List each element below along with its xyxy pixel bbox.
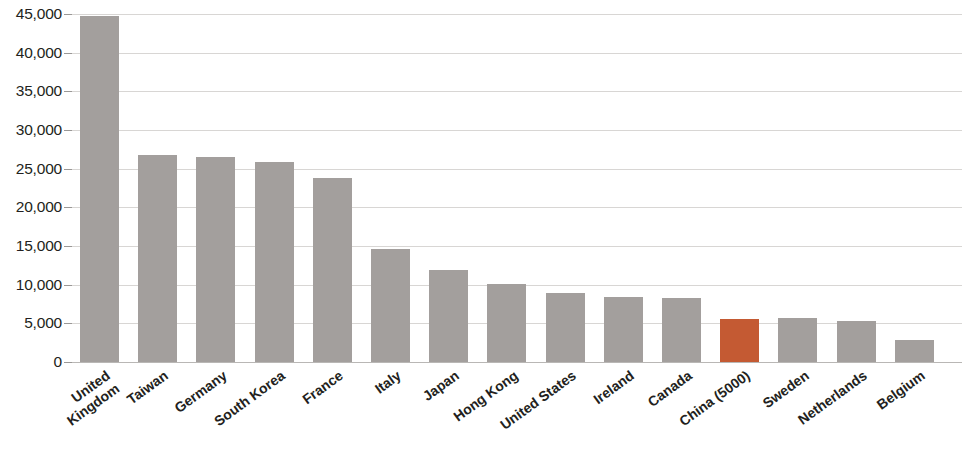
x-axis-tick-label-line: France [299,367,346,407]
bar [429,270,468,362]
x-axis-tick-label: Belgium [874,368,928,413]
x-axis-tick-label: France [300,368,346,408]
bar [720,319,759,362]
x-axis-tick-label: Taiwan [125,368,172,408]
x-axis-tick-label: UnitedKingdom [44,368,123,437]
plot-area: 05,00010,00015,00020,00025,00030,00035,0… [0,0,962,362]
bar [196,157,235,362]
bar [138,155,177,362]
x-axis-tick-label-line: Japan [420,367,462,404]
bar [604,297,643,362]
bars-layer [0,0,962,362]
bar [662,298,701,362]
x-axis-tick-label: Canada [645,368,695,410]
x-axis-tick-label-line: Taiwan [124,367,171,407]
x-axis-tick-label: Italy [373,368,405,397]
bar [487,284,526,362]
bar [313,178,352,362]
x-axis-tick-label-line: Ireland [590,367,637,407]
bar [837,321,876,362]
bar [255,162,294,362]
bar [80,16,119,362]
bar [546,293,585,362]
bar [778,318,817,362]
bar-chart: 05,00010,00015,00020,00025,00030,00035,0… [0,0,962,456]
x-axis-tick-label: Sweden [760,368,812,412]
x-axis-labels: UnitedKingdomTaiwanGermanySouth KoreaFra… [0,362,962,456]
x-axis-tick-label: Japan [421,368,463,404]
bar [371,249,410,362]
x-axis-tick-label-line: Canada [645,367,695,410]
x-axis-tick-label-line: Belgium [874,367,928,412]
x-axis-tick-label-line: Italy [372,367,404,396]
x-axis-tick-label-line: Sweden [759,367,811,411]
bar [895,340,934,362]
x-axis-tick-label: Ireland [591,368,637,408]
